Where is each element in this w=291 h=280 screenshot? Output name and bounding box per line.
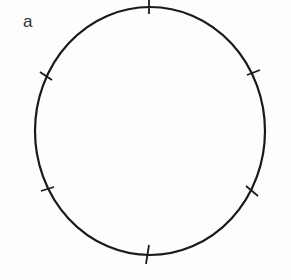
- figure-canvas: a: [0, 0, 291, 280]
- circle-diagram: [0, 0, 291, 280]
- circle-outline: [35, 7, 265, 255]
- tick-upper-right: [247, 70, 260, 75]
